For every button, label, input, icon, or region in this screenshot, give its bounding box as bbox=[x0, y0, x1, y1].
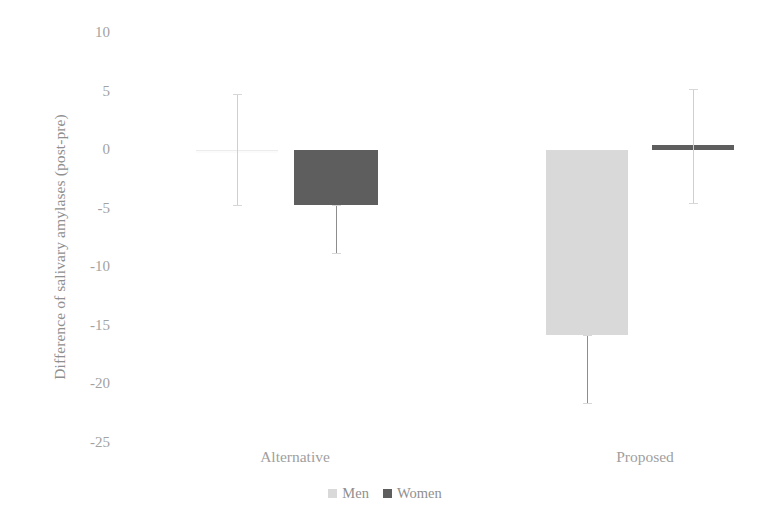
plot-area bbox=[118, 0, 770, 470]
x-tick-label-proposed: Proposed bbox=[545, 448, 745, 466]
y-axis-tick-labels: 1050-5-10-15-20-25 bbox=[48, 0, 110, 528]
light-gray-square-icon bbox=[328, 489, 337, 498]
error-bar-cap bbox=[689, 203, 698, 204]
y-tick-label: 5 bbox=[50, 84, 110, 99]
x-tick-label-alternative: Alternative bbox=[195, 448, 395, 466]
y-tick-label: -10 bbox=[50, 259, 110, 274]
bar-alternative-women bbox=[294, 150, 378, 205]
y-tick-label: -20 bbox=[50, 376, 110, 391]
error-bar-cap bbox=[233, 205, 242, 206]
y-tick-label: -25 bbox=[50, 435, 110, 450]
legend-entry-women: Women bbox=[383, 485, 442, 501]
y-tick-label: 10 bbox=[50, 25, 110, 40]
dark-gray-square-icon bbox=[383, 489, 392, 498]
y-tick-label: 0 bbox=[50, 142, 110, 157]
bar-proposed-men bbox=[546, 150, 628, 335]
error-bar-cap bbox=[583, 403, 592, 404]
error-bar-cap bbox=[332, 205, 341, 206]
error-bar-proposed-men bbox=[587, 335, 588, 403]
error-bar-cap bbox=[332, 253, 341, 254]
error-bar-alternative-men bbox=[237, 94, 238, 205]
legend-label: Men bbox=[342, 486, 369, 501]
legend-label: Women bbox=[397, 486, 442, 501]
bar-chart-figure: Difference of salivary amylases (post-pr… bbox=[0, 0, 770, 528]
y-tick-label: -5 bbox=[50, 201, 110, 216]
error-bar-cap bbox=[689, 89, 698, 90]
error-bar-alternative-women bbox=[336, 205, 337, 253]
legend-entry-men: Men bbox=[328, 485, 369, 501]
y-tick-label: -15 bbox=[50, 318, 110, 333]
error-bar-cap bbox=[233, 94, 242, 95]
chart-legend: MenWomen bbox=[0, 484, 770, 501]
error-bar-proposed-women bbox=[693, 89, 694, 203]
error-bar-cap bbox=[583, 335, 592, 336]
